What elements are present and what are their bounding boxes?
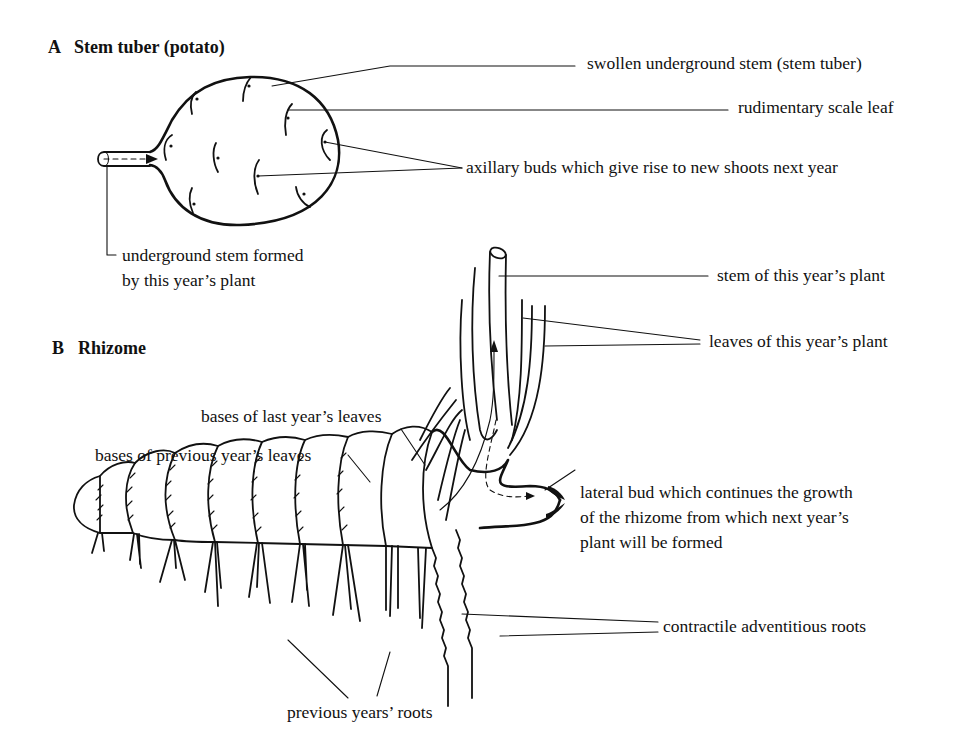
label-underground-stem-1: underground stem formed	[122, 244, 303, 266]
label-scale-leaf: rudimentary scale leaf	[738, 96, 893, 118]
part-a-title: Stem tuber (potato)	[74, 37, 225, 57]
label-lateral-bud-1: lateral bud which continues the growth	[580, 481, 853, 503]
part-b-letter: B	[52, 338, 78, 359]
label-contractile-roots: contractile adventitious roots	[663, 615, 866, 637]
previous-years-roots	[92, 533, 426, 628]
part-b-title: Rhizome	[78, 338, 146, 358]
label-axillary-buds: axillary buds which give rise to new sho…	[466, 156, 838, 178]
contractile-roots	[432, 530, 472, 706]
label-stem-this-year: stem of this year’s plant	[717, 264, 885, 286]
label-bases-previous-year: bases of previous year’s leaves	[95, 444, 311, 466]
label-bases-last-year: bases of last year’s leaves	[201, 405, 381, 427]
tuber-outline	[150, 77, 339, 225]
part-a-heading: AStem tuber (potato)	[48, 37, 225, 58]
label-previous-roots: previous years’ roots	[287, 701, 432, 723]
rhizome-drawing	[74, 246, 708, 706]
label-swollen-stem: swollen underground stem (stem tuber)	[587, 52, 862, 74]
label-leaves-this-year: leaves of this year’s plant	[709, 330, 888, 352]
label-lateral-bud-3: plant will be formed	[580, 531, 722, 553]
label-underground-stem-2: by this year’s plant	[122, 269, 255, 291]
part-b-heading: BRhizome	[52, 338, 146, 359]
part-a-letter: A	[48, 37, 74, 58]
label-lateral-bud-2: of the rhizome from which next year’s	[580, 506, 849, 528]
this-year-shoot	[412, 246, 565, 528]
